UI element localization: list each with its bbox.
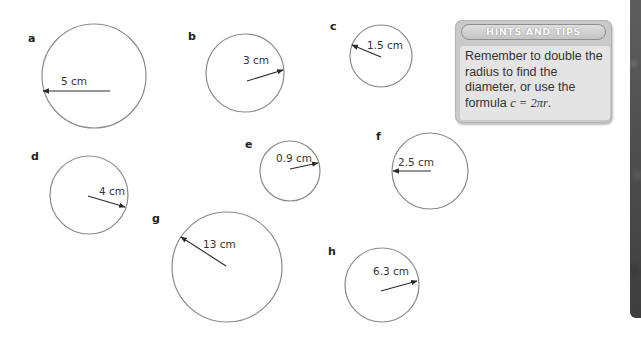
- radius-label: 2.5 cm: [398, 156, 434, 168]
- circle-shape: [172, 212, 282, 322]
- question-label: b: [188, 30, 196, 43]
- radius-label: 1.5 cm: [367, 39, 403, 51]
- question-label: c: [330, 20, 337, 33]
- hints-formula-suffix: .: [548, 96, 551, 110]
- circle-question-h: h6.3 cm: [328, 245, 419, 322]
- radius-label: 4 cm: [99, 185, 125, 197]
- radius-label: 6.3 cm: [373, 265, 409, 277]
- circle-shape: [345, 248, 419, 322]
- radius-label: 3 cm: [243, 54, 269, 66]
- hints-body: Remember to double the radius to find th…: [460, 46, 610, 120]
- circle-question-e: e0.9 cm: [245, 138, 320, 201]
- radius-label: 5 cm: [61, 75, 87, 87]
- radius-arrow-icon: [381, 281, 417, 291]
- circle-question-a: a5 cm: [28, 24, 146, 128]
- page-edge-texture: [630, 0, 641, 318]
- question-label: g: [152, 212, 160, 225]
- question-label: a: [28, 32, 35, 45]
- radius-label: 0.9 cm: [276, 152, 312, 164]
- radius-label: 13 cm: [203, 238, 236, 250]
- hints-body-text: Remember to double the radius to find th…: [465, 49, 603, 94]
- circle-question-c: c1.5 cm: [330, 20, 412, 87]
- question-label: e: [245, 138, 252, 151]
- circle-question-g: g13 cm: [152, 212, 282, 322]
- circle-shape: [350, 25, 412, 87]
- hints-formula-prefix: formula: [465, 96, 510, 110]
- circle-question-b: b3 cm: [188, 30, 284, 112]
- hints-and-tips-box: HINTS AND TIPS Remember to double the ra…: [455, 20, 612, 123]
- circumference-formula: c = 2πr: [510, 96, 548, 110]
- hints-title: HINTS AND TIPS: [461, 24, 606, 40]
- radius-arrow-icon: [247, 70, 283, 81]
- question-label: d: [31, 150, 39, 163]
- question-label: f: [376, 130, 381, 143]
- radius-arrow-icon: [88, 196, 125, 207]
- question-label: h: [328, 245, 336, 258]
- circle-shape: [42, 24, 146, 128]
- circle-shape: [260, 141, 320, 201]
- circle-question-f: f2.5 cm: [376, 130, 468, 209]
- circle-question-d: d4 cm: [31, 150, 128, 234]
